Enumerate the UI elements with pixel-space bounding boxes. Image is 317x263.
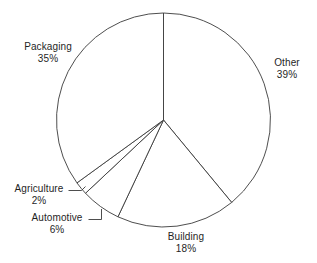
pie-label-automotive-value: 6% — [26, 224, 88, 236]
pie-label-other-name: Other — [262, 57, 312, 69]
pie-label-building-name: Building — [150, 231, 222, 243]
pie-slices — [57, 13, 271, 227]
pie-label-automotive-name: Automotive — [26, 212, 88, 224]
pie-label-other: Other 39% — [262, 57, 312, 81]
pie-label-agriculture-name: Agriculture — [8, 183, 70, 195]
pie-label-packaging-value: 35% — [12, 53, 84, 65]
pie-label-packaging-name: Packaging — [12, 41, 84, 53]
pie-label-agriculture-value: 2% — [8, 195, 70, 207]
pie-label-automotive: Automotive 6% — [26, 212, 88, 236]
leader-line-automotive — [89, 209, 102, 220]
pie-label-building-value: 18% — [150, 243, 222, 255]
pie-label-packaging: Packaging 35% — [12, 41, 84, 65]
pie-label-agriculture: Agriculture 2% — [8, 183, 70, 207]
pie-chart: Packaging 35% Other 39% Building 18% Agr… — [0, 0, 317, 263]
pie-label-building: Building 18% — [150, 231, 222, 255]
pie-label-other-value: 39% — [262, 69, 312, 81]
